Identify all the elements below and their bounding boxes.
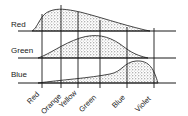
row-label-green: Green <box>11 47 33 55</box>
green-curve <box>38 36 148 58</box>
blue-curve <box>38 61 158 83</box>
red-curve <box>32 9 150 31</box>
row-label-blue: Blue <box>11 71 27 79</box>
row-label-red: Red <box>11 21 26 29</box>
